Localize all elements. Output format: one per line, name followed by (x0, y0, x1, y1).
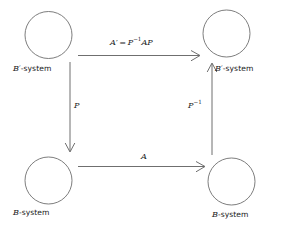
node-label-top-right: B′-system (215, 64, 253, 73)
node-label-top-right-suffix: -system (223, 64, 254, 73)
node-circle-bottom-left[interactable] (25, 157, 72, 204)
edge-arrow-bottom (78, 162, 205, 172)
node-circle-top-left[interactable] (25, 12, 72, 59)
node-label-top-left-suffix: -system (21, 64, 52, 73)
edge-label-right-exponent: −1 (194, 99, 202, 105)
node-label-bottom-left-suffix: -system (19, 208, 50, 217)
edge-label-top-rhs-tail: AP (141, 37, 152, 47)
diagram-canvas: B′-system B′-system B-system B-system A′… (0, 0, 287, 228)
node-label-bottom-right-suffix: -system (218, 210, 249, 219)
diagram-graphics (0, 0, 287, 228)
edge-label-right: P−1 (188, 101, 202, 109)
edge-arrow-right (207, 63, 217, 155)
node-circle-bottom-right[interactable] (208, 158, 255, 205)
node-label-bottom-left: B-system (13, 208, 50, 217)
node-label-bottom-right: B-system (212, 210, 249, 219)
edge-label-bottom: A (141, 152, 147, 160)
edge-label-top: A′=P−1AP (110, 38, 153, 46)
node-label-top-left: B′-system (13, 64, 51, 73)
edge-arrow-top (78, 51, 200, 61)
edge-label-top-equals: = (119, 37, 126, 47)
node-circle-top-right[interactable] (203, 10, 250, 57)
edge-label-left: P (74, 101, 80, 109)
edge-label-top-prime: ′ (116, 37, 118, 47)
